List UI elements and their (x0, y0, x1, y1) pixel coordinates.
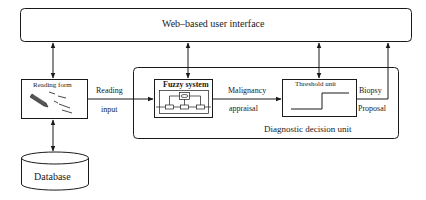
diagram-canvas (0, 0, 426, 200)
fuzzy-system-label: Fuzzy system (163, 81, 209, 89)
biopsy-label-1: Biopsy (359, 87, 382, 95)
web-ui-label: Web–based user interface (162, 19, 264, 29)
biopsy-label-2: Proposal (358, 105, 386, 113)
threshold-unit-label: Threshold unit (295, 81, 336, 88)
reading-form-label: Reading form (33, 82, 72, 89)
reading-input-label-1: Reading (96, 87, 123, 95)
database-label: Database (34, 172, 71, 182)
decision-unit-label: Diagnostic decision unit (264, 125, 352, 134)
malignancy-label-1: Malignancy (228, 87, 266, 95)
malignancy-label-2: appraisal (229, 105, 258, 113)
reading-input-label-2: input (101, 106, 117, 114)
